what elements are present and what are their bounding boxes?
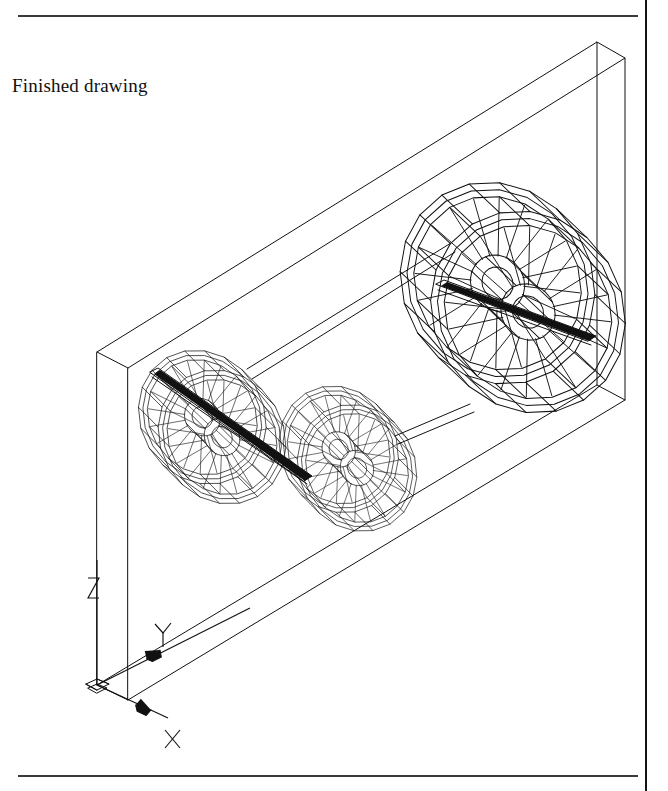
ucs-icon bbox=[86, 560, 250, 748]
belt-lower-a bbox=[395, 404, 470, 436]
pulley-right bbox=[369, 149, 656, 446]
slab-back-face bbox=[97, 42, 597, 685]
page-canvas: Finished drawing .ln { fill:none; stroke… bbox=[0, 0, 668, 791]
ucs-x-arrowhead bbox=[134, 698, 154, 717]
ucs-y-label bbox=[155, 623, 171, 647]
slab-wireframe bbox=[97, 42, 625, 700]
ucs-y-axis bbox=[97, 608, 250, 685]
wireframe-svg: .ln { fill:none; stroke:#111111; stroke-… bbox=[0, 0, 668, 791]
ucs-x-label bbox=[165, 730, 180, 748]
cad-drawing-viewport: .ln { fill:none; stroke:#111111; stroke-… bbox=[0, 0, 668, 791]
belt-upper-b bbox=[252, 252, 455, 379]
ucs-x-axis bbox=[97, 685, 168, 718]
slab-thickness-edges bbox=[97, 42, 625, 700]
belt-lower-b bbox=[398, 412, 474, 444]
belt-upper-a bbox=[247, 243, 451, 369]
slab-front-face bbox=[128, 58, 625, 700]
shaft-left bbox=[150, 368, 312, 484]
